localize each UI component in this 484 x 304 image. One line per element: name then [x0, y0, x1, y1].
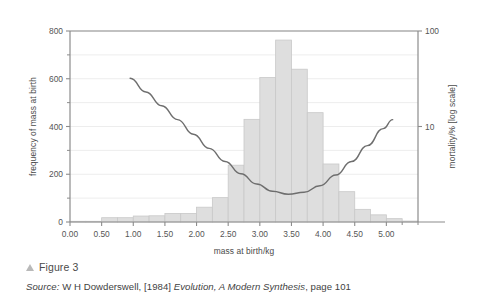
y2-axis-tick-label: 10	[425, 122, 435, 132]
y-axis-tick-label: 0	[58, 217, 63, 227]
histogram-bar	[339, 192, 355, 222]
x-axis-tick-label: 1.50	[157, 229, 174, 239]
x-axis-tick-label: 3.00	[252, 229, 269, 239]
y-axis-tick-label: 400	[49, 122, 63, 132]
histogram-bar	[197, 207, 213, 222]
histogram-bar	[133, 216, 149, 222]
source-page: , page 101	[305, 281, 351, 292]
source-prefix: Source:	[26, 281, 59, 292]
x-axis-tick-label: 0.00	[62, 229, 79, 239]
x-axis-tick-label: 3.50	[283, 229, 300, 239]
source-line: Source: W H Dowderswell, [1984] Evolutio…	[26, 281, 351, 292]
histogram-bar	[291, 69, 307, 222]
histogram-bar	[165, 213, 181, 222]
histogram-bar	[371, 215, 387, 222]
x-axis-tick-label: 0.50	[93, 229, 110, 239]
y-axis-tick-label: 200	[49, 169, 63, 179]
y2-axis-tick-label: 100	[425, 26, 439, 36]
histogram-mortality-chart: 0200400600800101000.000.501.001.502.002.…	[0, 0, 484, 258]
histogram-bar	[307, 113, 323, 222]
histogram-bar	[244, 119, 260, 222]
histogram-bar	[181, 213, 197, 222]
histogram-bar	[117, 218, 133, 222]
x-axis-tick-label: 4.00	[315, 229, 332, 239]
source-title: Evolution, A Modern Synthesis	[174, 281, 305, 292]
figure-container: 0200400600800101000.000.501.001.502.002.…	[0, 0, 484, 304]
y-axis-tick-label: 800	[49, 26, 63, 36]
y-axis-title: frequency of mass at birth	[28, 77, 38, 176]
triangle-up-icon	[26, 264, 34, 271]
x-axis-tick-label: 4.50	[347, 229, 364, 239]
y2-axis-title: mortality/% [log scale]	[447, 85, 457, 169]
histogram-bar	[355, 209, 371, 222]
histogram-bar	[323, 164, 339, 222]
x-axis-tick-label: 5.00	[378, 229, 395, 239]
y-axis-tick-label: 600	[49, 74, 63, 84]
x-axis-tick-label: 2.00	[188, 229, 205, 239]
figure-caption: Figure 3	[26, 261, 78, 273]
x-axis-tick-label: 1.00	[125, 229, 142, 239]
x-axis-title: mass at birth/kg	[214, 246, 275, 256]
source-year: [1984]	[144, 281, 171, 292]
chart-area: 0200400600800101000.000.501.001.502.002.…	[0, 0, 484, 258]
histogram-bar	[149, 216, 165, 222]
histogram-bar	[102, 218, 118, 222]
source-author: W H Dowderswell,	[62, 281, 141, 292]
histogram-bar	[212, 198, 228, 222]
x-axis-tick-label: 2.50	[220, 229, 237, 239]
figure-label: Figure 3	[39, 261, 78, 273]
histogram-bar	[260, 78, 276, 222]
